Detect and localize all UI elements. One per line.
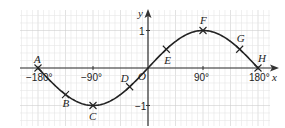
point-label-b: B	[63, 97, 70, 109]
point-label-h: H	[257, 52, 267, 64]
cross-marker-icon	[236, 46, 243, 53]
y-tick-label: −1	[135, 101, 147, 112]
point-label-e: E	[163, 54, 171, 66]
point-label-d: D	[120, 72, 129, 84]
cross-marker-icon	[163, 46, 170, 53]
x-tick-label: 90°	[194, 72, 209, 83]
point-label-f: F	[199, 14, 207, 26]
point-label-a: A	[33, 53, 41, 65]
cross-marker-icon	[126, 83, 133, 90]
point-label-g: G	[237, 32, 245, 44]
y-tick-label: 1	[139, 26, 145, 37]
sine-graph: ABCDEFGH −180°−90°90°180°1−1xyO	[0, 0, 285, 128]
x-tick-label: 180°	[249, 72, 270, 83]
origin-label: O	[138, 70, 146, 82]
point-label-c: C	[89, 110, 97, 122]
x-tick-label: −180°	[26, 72, 53, 83]
x-tick-label: −90°	[81, 72, 102, 83]
x-axis-label: x	[271, 71, 277, 83]
y-axis-label: y	[137, 7, 143, 19]
